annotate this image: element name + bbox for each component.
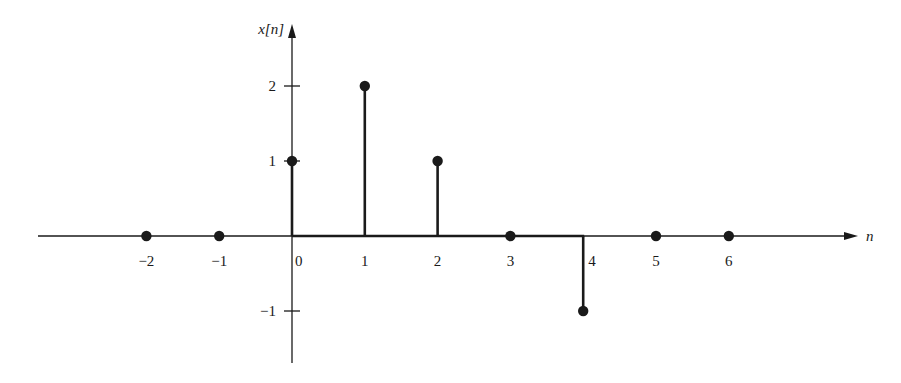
axis-labels: 21−1−2−10123456nx[n] — [138, 21, 873, 319]
x-tick-label: 0 — [295, 253, 303, 269]
x-tick-label: 1 — [361, 253, 369, 269]
x-tick-label: 3 — [507, 253, 515, 269]
stem-marker — [214, 231, 224, 241]
stem-marker — [141, 231, 151, 241]
axes — [38, 24, 858, 363]
x-axis-title: n — [866, 228, 874, 244]
y-tick-label: −1 — [260, 303, 276, 319]
x-tick-label: −2 — [138, 253, 154, 269]
y-axis-title: x[n] — [257, 21, 284, 37]
stem-marker — [505, 231, 515, 241]
x-axis-arrow-icon — [844, 232, 858, 240]
stem-marker — [724, 231, 734, 241]
y-tick-label: 1 — [269, 153, 277, 169]
y-axis-arrow-icon — [288, 24, 296, 38]
x-tick-label: −1 — [211, 253, 227, 269]
stem-marker — [578, 306, 588, 316]
stems — [141, 81, 734, 316]
x-tick-label: 6 — [725, 253, 733, 269]
stem-plot: 21−1−2−10123456nx[n] — [0, 0, 901, 383]
x-tick-label: 4 — [588, 253, 596, 269]
x-tick-label: 2 — [434, 253, 442, 269]
stem-marker — [432, 156, 442, 166]
stem-marker — [287, 156, 297, 166]
stem-marker — [651, 231, 661, 241]
stem-marker — [360, 81, 370, 91]
x-tick-label: 5 — [652, 253, 660, 269]
y-tick-label: 2 — [269, 78, 277, 94]
